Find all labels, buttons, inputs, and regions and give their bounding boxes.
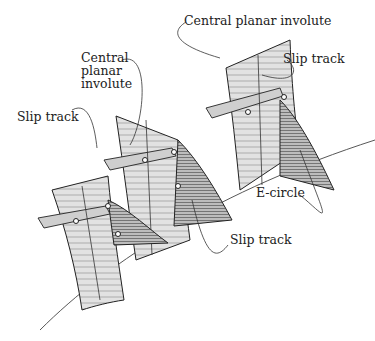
label-slip-track-left: Slip track bbox=[17, 110, 79, 123]
label-central-planar-involute-left: Central planar involute bbox=[81, 51, 132, 90]
label-slip-track-top: Slip track bbox=[283, 52, 345, 65]
label-central-planar-involute-top: Central planar involute bbox=[184, 14, 331, 27]
label-e-circle: E-circle bbox=[256, 186, 305, 199]
diagram-canvas: Central planar involute Slip track Centr… bbox=[0, 0, 375, 341]
label-slip-track-bottom: Slip track bbox=[230, 233, 292, 246]
